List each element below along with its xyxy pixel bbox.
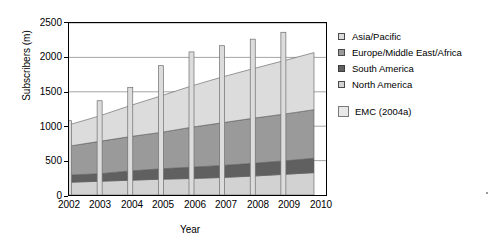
- x-tick-label-2003: 2003: [85, 200, 115, 210]
- legend-item-asia-pacific[interactable]: Asia/Pacific: [338, 28, 462, 44]
- x-tick-label-2009: 2009: [274, 200, 304, 210]
- y-tick-label-2000: 2000: [28, 52, 62, 62]
- legend-label: North America: [352, 79, 412, 90]
- legend-swatch-icon: [338, 49, 345, 56]
- overlay-bar: [158, 66, 163, 195]
- y-tick-label-1000: 1000: [28, 122, 62, 132]
- legend-swatch-icon: [338, 81, 345, 88]
- legend-item-source[interactable]: EMC (2004a): [338, 106, 462, 117]
- legend-swatch-icon: [338, 106, 349, 117]
- legend-item-south-america[interactable]: South America: [338, 60, 462, 76]
- legend-item-north-america[interactable]: North America: [338, 76, 462, 92]
- overlay-bar: [128, 87, 133, 195]
- legend-swatch-icon: [338, 33, 345, 40]
- x-tick-label-2005: 2005: [148, 200, 178, 210]
- stray-mark: [486, 192, 488, 194]
- legend-source-label: EMC (2004a): [355, 106, 412, 117]
- y-tick-mark: [64, 196, 68, 197]
- x-tick-label-2008: 2008: [243, 200, 273, 210]
- y-tick-label-2500: 2500: [28, 18, 62, 28]
- x-tick-label-2007: 2007: [211, 200, 241, 210]
- x-axis-title: Year: [130, 224, 250, 235]
- chart-figure: Subscribers (m) 2500 2000 1500 1000 500 …: [0, 0, 497, 249]
- overlay-bar: [220, 46, 225, 195]
- overlay-bar: [189, 52, 194, 195]
- plot-area: [68, 22, 327, 196]
- x-tick-label-2006: 2006: [180, 200, 210, 210]
- legend-item-europe-middle-east-africa[interactable]: Europe/Middle East/Africa: [338, 44, 462, 60]
- legend-label: Asia/Pacific: [352, 31, 401, 42]
- x-tick-label-2010: 2010: [306, 200, 336, 210]
- x-tick-label-2004: 2004: [117, 200, 147, 210]
- legend-label: Europe/Middle East/Africa: [352, 47, 462, 58]
- legend-swatch-icon: [338, 65, 345, 72]
- overlay-bar: [281, 32, 286, 195]
- y-tick-label-500: 500: [28, 156, 62, 166]
- legend-label: South America: [352, 63, 414, 74]
- legend: Asia/Pacific Europe/Middle East/Africa S…: [338, 28, 462, 117]
- overlay-bar: [97, 101, 102, 195]
- y-tick-label-1500: 1500: [28, 87, 62, 97]
- overlay-bar: [69, 121, 72, 195]
- overlay-bar: [250, 39, 255, 195]
- x-tick-label-2002: 2002: [54, 200, 84, 210]
- chart-canvas: [69, 23, 326, 195]
